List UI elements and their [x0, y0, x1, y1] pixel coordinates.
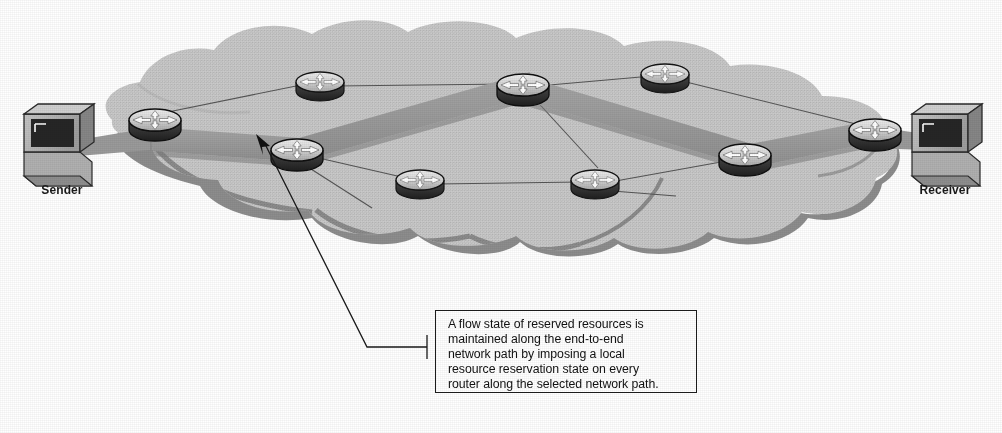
router-top-left[interactable]	[296, 72, 344, 101]
callout-line-1: A flow state of reserved resources is	[448, 317, 696, 332]
callout-line-4: resource reservation state on every	[448, 362, 696, 377]
callout-line-5: router along the selected network path.	[448, 377, 696, 392]
edge-router-left[interactable]	[129, 109, 181, 141]
router-middle-right[interactable]	[719, 144, 771, 176]
sender-workstation	[24, 104, 94, 186]
edge-router-right[interactable]	[849, 119, 901, 151]
callout-line-2: maintained along the end-to-end	[448, 332, 696, 347]
receiver-workstation	[912, 104, 982, 186]
router-top-center[interactable]	[497, 74, 549, 106]
callout-box: A flow state of reserved resources is ma…	[435, 310, 697, 393]
diagram-canvas: Sender Receiver A flow state of reserved…	[0, 0, 1002, 433]
router-bottom-left[interactable]	[396, 170, 444, 199]
router-top-right[interactable]	[641, 64, 689, 93]
router-middle-left[interactable]	[271, 139, 323, 171]
router-bottom-right[interactable]	[571, 170, 619, 199]
callout-line-3: network path by imposing a local	[448, 347, 696, 362]
sender-label: Sender	[20, 183, 104, 197]
receiver-label: Receiver	[900, 183, 990, 197]
